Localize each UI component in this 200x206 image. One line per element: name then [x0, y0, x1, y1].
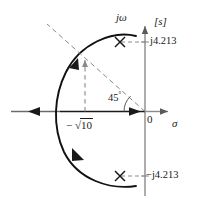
imaginary-axis-label: jω [116, 12, 127, 23]
plane-label: [s] [154, 16, 167, 27]
angle-value: 45 [108, 92, 119, 103]
origin-label: 0 [147, 114, 153, 125]
real-axis-inner-arrow-icon [129, 107, 141, 116]
locus-arrow-lower-icon [72, 148, 84, 161]
sqrt-symbol-icon: √10 [75, 120, 93, 131]
degree-sign-icon: ° [119, 90, 122, 98]
pole-upper-label: j4.213 [150, 36, 177, 47]
real-axis-branch-arrow-icon [28, 107, 40, 116]
angle-label: 45° [108, 91, 121, 103]
breakaway-label: − √10 [66, 120, 93, 131]
breakaway-radicand: 10 [80, 118, 93, 131]
real-axis-label: σ [172, 118, 177, 129]
pole-lower-label: −j4.213 [146, 170, 178, 181]
asymptote-45-line [47, 24, 145, 112]
breakaway-minus-sign: − [66, 119, 72, 131]
